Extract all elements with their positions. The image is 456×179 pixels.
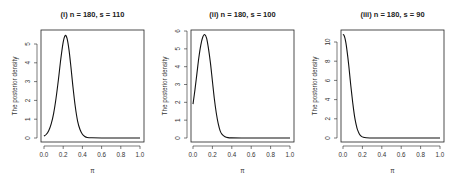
y-axis: 0123456The posterior density — [161, 29, 187, 140]
panel-1: (i) n = 180, s = 1100.00.20.40.60.81.0π0… — [11, 10, 145, 174]
x-tick-label: 0.6 — [97, 151, 106, 158]
panel-3: (iii) n = 180, s = 900.00.20.40.60.81.0π… — [311, 10, 445, 174]
panel-title: (iii) n = 180, s = 90 — [360, 10, 424, 19]
x-axis-label: π — [90, 167, 95, 174]
y-axis-label: The posterior density — [161, 56, 169, 116]
x-axis: 0.00.20.40.60.81.0π — [40, 146, 145, 174]
x-tick-label: 0.4 — [227, 151, 236, 158]
x-tick-label: 0.2 — [358, 151, 367, 158]
y-axis-label: The posterior density — [11, 56, 19, 116]
y-axis-label: The posterior density — [311, 56, 319, 116]
x-tick-label: 1.0 — [436, 151, 445, 158]
x-axis-label: π — [240, 167, 245, 174]
x-tick-label: 0.8 — [266, 151, 275, 158]
x-axis: 0.00.20.40.60.81.0π — [189, 146, 295, 174]
x-tick-label: 0.6 — [247, 151, 256, 158]
plot-frame — [41, 30, 144, 142]
y-tick-label: 10 — [324, 38, 331, 46]
x-tick-label: 0.8 — [416, 151, 425, 158]
panel-title: (ii) n = 180, s = 100 — [209, 10, 275, 19]
posterior-density-figure: (i) n = 180, s = 1100.00.20.40.60.81.0π0… — [0, 0, 456, 179]
y-tick-label: 5 — [24, 42, 31, 46]
y-tick-label: 4 — [24, 61, 31, 65]
x-tick-label: 0.4 — [377, 151, 386, 158]
x-tick-label: 0.6 — [397, 151, 406, 158]
y-tick-label: 4 — [324, 97, 331, 101]
y-tick-label: 2 — [174, 100, 181, 104]
y-tick-label: 6 — [324, 78, 331, 82]
y-tick-label: 1 — [24, 117, 31, 121]
x-tick-label: 0.8 — [116, 151, 125, 158]
x-axis-label: π — [390, 167, 395, 174]
y-tick-label: 2 — [24, 98, 31, 102]
y-tick-label: 3 — [174, 82, 181, 86]
x-tick-label: 0.2 — [208, 151, 217, 158]
x-tick-label: 0.0 — [339, 151, 348, 158]
y-axis: 012345The posterior density — [11, 42, 37, 140]
panel-2: (ii) n = 180, s = 1000.00.20.40.60.81.0π… — [161, 10, 295, 174]
y-tick-label: 1 — [174, 118, 181, 122]
x-tick-label: 1.0 — [136, 151, 145, 158]
posterior-density-curve — [193, 35, 290, 138]
posterior-density-curve — [44, 35, 140, 138]
y-tick-label: 4 — [174, 64, 181, 68]
y-tick-label: 0 — [324, 136, 331, 140]
x-tick-label: 0.2 — [59, 151, 68, 158]
posterior-density-curve — [343, 34, 440, 138]
x-tick-label: 0.4 — [78, 151, 87, 158]
y-tick-label: 3 — [24, 79, 31, 83]
y-tick-label: 2 — [324, 117, 331, 121]
x-tick-label: 0.0 — [40, 151, 49, 158]
x-tick-label: 1.0 — [286, 151, 295, 158]
panel-title: (i) n = 180, s = 110 — [61, 10, 125, 19]
x-tick-label: 0.0 — [189, 151, 198, 158]
y-tick-label: 0 — [24, 136, 31, 140]
y-tick-label: 0 — [174, 136, 181, 140]
y-axis: 0246810The posterior density — [311, 38, 337, 140]
y-tick-label: 5 — [174, 47, 181, 51]
y-tick-label: 8 — [324, 59, 331, 63]
x-axis: 0.00.20.40.60.81.0π — [339, 146, 445, 174]
plot-frame — [191, 30, 294, 142]
y-tick-label: 6 — [174, 29, 181, 33]
